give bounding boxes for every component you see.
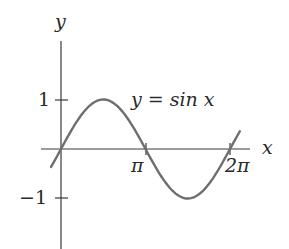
plot-canvas [0, 0, 289, 249]
sine-plot: y x 1 −1 π 2π y = sin x [0, 0, 289, 249]
y-axis-label: y [55, 12, 66, 31]
x-axis-label: x [262, 138, 273, 157]
curve-label: y = sin x [131, 90, 215, 109]
x-tick-label-pi: π [131, 156, 144, 175]
y-tick-label-neg-1: −1 [19, 188, 47, 207]
y-tick-label-1: 1 [38, 90, 50, 109]
x-tick-label-2pi: 2π [225, 156, 250, 175]
